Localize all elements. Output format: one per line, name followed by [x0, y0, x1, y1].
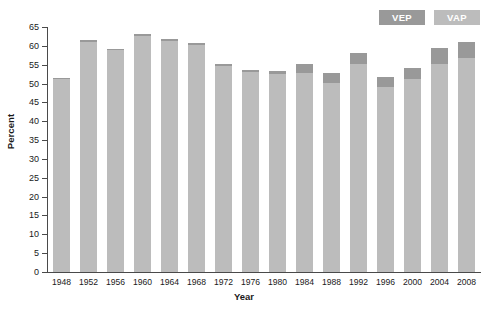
bar-group	[431, 27, 449, 272]
y-tick-mark	[42, 84, 47, 85]
bar-group	[161, 27, 179, 272]
bar-vap	[53, 79, 71, 272]
x-tick-label: 2004	[430, 277, 449, 287]
y-tick-mark	[42, 253, 47, 254]
voter-turnout-chart: Percent Year VEP VAP 0510152025303540455…	[0, 0, 488, 309]
bar-vap	[296, 73, 314, 272]
bar-series-container	[48, 27, 480, 272]
bar-vap	[188, 45, 206, 272]
legend-label-vap: VAP	[447, 12, 467, 23]
y-tick-mark	[42, 197, 47, 198]
y-tick-mark	[42, 178, 47, 179]
bar-vap	[323, 83, 341, 272]
legend-label-vep: VEP	[392, 12, 412, 23]
x-tick-label: 1956	[106, 277, 125, 287]
y-tick-mark	[42, 272, 47, 273]
x-tick-label: 1988	[322, 277, 341, 287]
bar-vap	[458, 58, 476, 272]
y-tick-label: 50	[29, 79, 39, 89]
y-tick-label: 30	[29, 154, 39, 164]
plot-area: 05101520253035404550556065 1948195219561…	[47, 27, 480, 272]
chart-legend: VEP VAP	[379, 10, 480, 25]
bar-vap	[242, 72, 260, 272]
bar-group	[134, 27, 152, 272]
x-tick-label: 1952	[79, 277, 98, 287]
bar-vap	[431, 64, 449, 272]
y-tick-label: 65	[29, 22, 39, 32]
y-tick-label: 35	[29, 135, 39, 145]
x-axis-line	[47, 272, 481, 273]
bar-group	[269, 27, 287, 272]
y-tick-label: 20	[29, 192, 39, 202]
x-tick-label: 1964	[160, 277, 179, 287]
bar-vap	[350, 64, 368, 272]
bar-group	[242, 27, 260, 272]
bar-vap	[107, 50, 125, 272]
x-tick-label: 1992	[349, 277, 368, 287]
legend-item-vap: VAP	[434, 10, 480, 25]
x-tick-label: 1972	[214, 277, 233, 287]
x-tick-label: 1996	[376, 277, 395, 287]
bar-group	[377, 27, 395, 272]
y-tick-mark	[42, 121, 47, 122]
x-tick-label: 1968	[187, 277, 206, 287]
bar-group	[80, 27, 98, 272]
bar-vap	[215, 66, 233, 272]
y-tick-mark	[42, 46, 47, 47]
y-tick-label: 40	[29, 116, 39, 126]
x-tick-label: 1984	[295, 277, 314, 287]
y-tick-label: 0	[34, 267, 39, 277]
x-tick-label: 1960	[133, 277, 152, 287]
bar-group	[350, 27, 368, 272]
bar-group	[404, 27, 422, 272]
y-tick-mark	[42, 102, 47, 103]
x-tick-label: 1980	[268, 277, 287, 287]
bar-vap	[404, 79, 422, 272]
x-tick-label: 1948	[52, 277, 71, 287]
y-tick-mark	[42, 234, 47, 235]
bar-group	[107, 27, 125, 272]
y-tick-label: 10	[29, 229, 39, 239]
x-tick-label: 2008	[457, 277, 476, 287]
y-tick-mark	[42, 140, 47, 141]
y-tick-label: 5	[34, 248, 39, 258]
y-tick-mark	[42, 65, 47, 66]
bar-vap	[80, 42, 98, 272]
bar-group	[296, 27, 314, 272]
y-tick-label: 60	[29, 41, 39, 51]
y-axis-title: Percent	[5, 100, 16, 164]
y-tick-mark	[42, 159, 47, 160]
y-tick-label: 55	[29, 60, 39, 70]
bar-group	[215, 27, 233, 272]
bar-group	[188, 27, 206, 272]
x-axis-title: Year	[0, 291, 488, 302]
bar-group	[458, 27, 476, 272]
y-tick-label: 25	[29, 173, 39, 183]
x-tick-label: 2000	[403, 277, 422, 287]
y-tick-mark	[42, 27, 47, 28]
y-tick-label: 15	[29, 210, 39, 220]
bar-vap	[269, 74, 287, 272]
bar-group	[323, 27, 341, 272]
legend-item-vep: VEP	[379, 10, 425, 25]
bar-group	[53, 27, 71, 272]
bar-vap	[377, 87, 395, 272]
y-tick-label: 45	[29, 97, 39, 107]
y-tick-mark	[42, 215, 47, 216]
bar-vap	[161, 41, 179, 272]
bar-vap	[134, 36, 152, 272]
x-tick-label: 1976	[241, 277, 260, 287]
